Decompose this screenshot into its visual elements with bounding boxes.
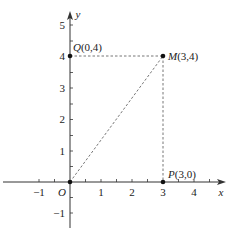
point-q-name: Q [73, 41, 81, 53]
point-m [161, 54, 166, 59]
x-tick-label-2: 2 [129, 186, 135, 198]
y-tick-label-5: 5 [60, 19, 66, 31]
x-axis: −1 1 2 3 4 x [3, 179, 226, 198]
y-tick-label-4: 4 [60, 50, 66, 62]
x-axis-label: x [218, 186, 224, 198]
y-axis-label: y [75, 8, 81, 20]
coordinate-diagram: −1 1 2 3 4 x −1 1 2 3 4 5 y O [0, 0, 231, 234]
y-tick-label-neg1: −1 [53, 207, 65, 219]
x-tick-label-3: 3 [160, 186, 166, 198]
x-tick-label-neg1: −1 [33, 186, 45, 198]
point-p [161, 180, 166, 185]
x-tick-label-4: 4 [191, 186, 197, 198]
point-q-label: Q(0,4) [73, 41, 102, 54]
y-tick-label-2: 2 [60, 113, 66, 125]
x-tick-label-1: 1 [98, 186, 104, 198]
point-m-coords: (3,4) [177, 50, 198, 63]
point-q [68, 54, 73, 59]
y-tick-label-1: 1 [60, 145, 66, 157]
dashed-segments [70, 56, 163, 182]
origin-label: O [58, 186, 66, 198]
point-m-label: M(3,4) [167, 50, 199, 63]
y-tick-label-3: 3 [60, 82, 66, 94]
point-q-coords: (0,4) [81, 41, 102, 54]
point-p-label: P(3,0) [167, 168, 196, 181]
point-p-coords: (3,0) [175, 168, 196, 181]
segment-o-m [70, 56, 163, 182]
point-o [68, 180, 73, 185]
